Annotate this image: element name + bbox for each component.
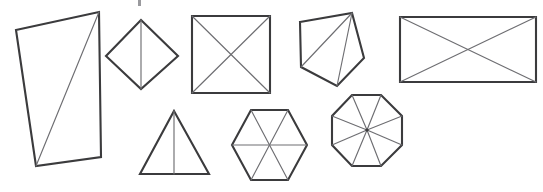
shape-wide-rectangle: [400, 17, 536, 82]
shape-tilted-rectangle: [16, 12, 101, 166]
shape-square: [192, 16, 270, 93]
shape-pentagon: [300, 13, 364, 86]
tilted-rectangle-outline: [16, 12, 101, 166]
pentagon-outline: [300, 13, 364, 86]
shape-diamond: [106, 20, 178, 89]
clipped-text-remnant: [138, 0, 141, 6]
shape-hexagon: [232, 110, 307, 180]
shape-octagon: [332, 95, 402, 166]
figure-canvas: [0, 0, 543, 192]
shape-triangle: [140, 111, 209, 174]
diamond-outline: [106, 20, 178, 89]
polygon-triangulation-figure: [0, 0, 543, 192]
octagon-center-point: [365, 128, 368, 131]
